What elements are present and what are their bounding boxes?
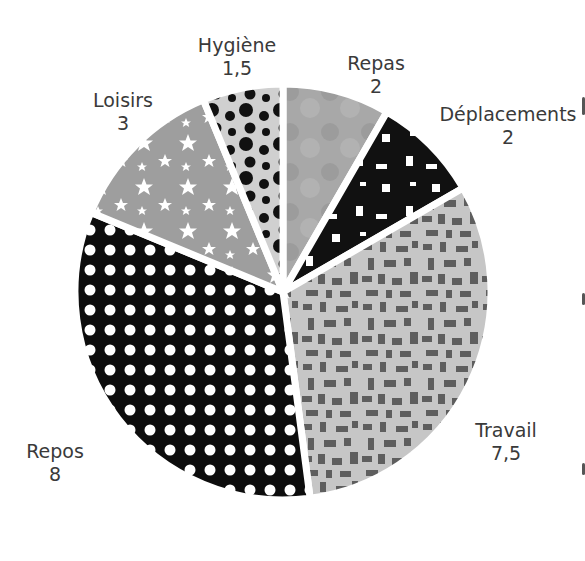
label-loisirs: Loisirs 3 <box>93 89 153 135</box>
label-travail-value: 7,5 <box>475 442 537 465</box>
label-repas-name: Repas <box>347 52 405 75</box>
label-deplacements: Déplacements 2 <box>439 103 576 149</box>
label-hygiene-value: 1,5 <box>198 57 276 80</box>
label-repos-value: 8 <box>26 463 84 486</box>
label-travail: Travail 7,5 <box>475 419 537 465</box>
label-deplacements-value: 2 <box>439 126 576 149</box>
label-repas-value: 2 <box>347 75 405 98</box>
label-hygiene-name: Hygiène <box>198 34 276 57</box>
label-loisirs-value: 3 <box>93 112 153 135</box>
label-travail-name: Travail <box>475 419 537 442</box>
pie-chart <box>0 0 585 561</box>
label-repos-name: Repos <box>26 440 84 463</box>
label-deplacements-name: Déplacements <box>439 103 576 126</box>
label-repos: Repos 8 <box>26 440 84 486</box>
label-hygiene: Hygiène 1,5 <box>198 34 276 80</box>
label-repas: Repas 2 <box>347 52 405 98</box>
label-loisirs-name: Loisirs <box>93 89 153 112</box>
pie-slices <box>75 84 491 500</box>
